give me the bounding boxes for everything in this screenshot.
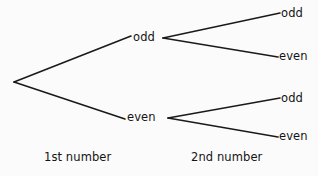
node-label-first-odd: odd: [133, 32, 155, 44]
node-label-first-even: even: [127, 112, 156, 124]
node-label-second-even-even: even: [279, 131, 308, 143]
branch-root-to-odd: [14, 36, 131, 82]
stage-caption-first-number: 1st number: [44, 152, 111, 164]
probability-tree-diagram: odd even odd even odd even 1st number 2n…: [0, 0, 318, 176]
node-label-second-even-odd: odd: [281, 93, 303, 105]
node-label-second-odd-odd: odd: [281, 8, 303, 20]
stage-caption-second-number: 2nd number: [191, 152, 262, 164]
branch-odd-to-even: [163, 38, 278, 57]
branch-odd-to-odd: [163, 13, 280, 38]
branch-even-to-even: [168, 118, 278, 137]
node-label-second-odd-even: even: [279, 51, 308, 63]
branch-root-to-even: [14, 82, 125, 119]
branch-even-to-odd: [168, 98, 280, 118]
